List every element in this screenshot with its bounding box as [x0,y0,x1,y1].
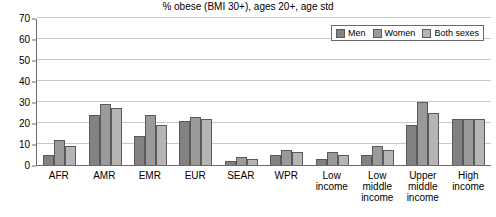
gridline [37,17,491,18]
x-axis-label: Low middle income [355,168,401,216]
bar [43,155,54,166]
bar [452,119,463,165]
bar [201,119,212,165]
bar [406,125,417,165]
bar [327,152,338,165]
bar [372,146,383,165]
bar [281,150,292,165]
bar [383,150,394,165]
bar [145,115,156,165]
bar [463,119,474,165]
bar [54,140,65,165]
bar [111,108,122,165]
bar [361,155,372,166]
bar-group [264,19,309,165]
y-tick-label: 60 [19,35,30,45]
bar [417,102,428,165]
y-tick-label: 20 [19,119,30,129]
bar [292,152,303,165]
plot-area [36,19,491,166]
chart-legend: MenWomenBoth sexes [331,25,484,41]
legend-swatch-icon [422,29,431,38]
bar [89,115,100,165]
y-axis: 010203040506070 [0,19,36,167]
bar [428,113,439,166]
x-axis-label: WPR [264,168,310,216]
bar [270,155,281,166]
bar-group [37,19,82,165]
chart-title: % obese (BMI 30+), ages 20+, age std [0,1,496,13]
bar-group [128,19,173,165]
bar [179,121,190,165]
legend-item: Women [373,28,416,38]
bar [236,157,247,165]
bar [316,159,327,165]
legend-swatch-icon [336,29,345,38]
legend-label: Women [385,28,416,38]
bar [190,117,201,165]
bar [225,161,236,165]
legend-swatch-icon [373,29,382,38]
bar [156,125,167,165]
x-axis-label: AMR [82,168,128,216]
bar-group [82,19,127,165]
y-tick-label: 40 [19,77,30,87]
bar [247,159,258,165]
x-axis-label: Low income [309,168,355,216]
legend-item: Both sexes [422,28,479,38]
x-axis-label: AFR [36,168,82,216]
legend-label: Men [348,28,366,38]
bar [474,119,485,165]
x-axis-label: Upper middle income [400,168,446,216]
bar [100,104,111,165]
y-tick-label: 0 [24,161,30,171]
chart-container: % obese (BMI 30+), ages 20+, age std 010… [0,0,496,217]
x-axis-label: EUR [173,168,219,216]
bar-group [219,19,264,165]
y-tick-label: 70 [19,14,30,24]
x-axis-label: High income [446,168,492,216]
y-tick-label: 10 [19,140,30,150]
bar [338,155,349,166]
bar-group [173,19,218,165]
bar [65,146,76,165]
x-axis-labels: AFRAMREMREURSEARWPRLow incomeLow middle … [36,168,491,216]
legend-label: Both sexes [434,28,479,38]
y-tick-label: 50 [19,56,30,66]
legend-item: Men [336,28,366,38]
x-axis-label: SEAR [218,168,264,216]
x-axis-label: EMR [127,168,173,216]
bar [134,136,145,165]
y-tick-label: 30 [19,98,30,108]
